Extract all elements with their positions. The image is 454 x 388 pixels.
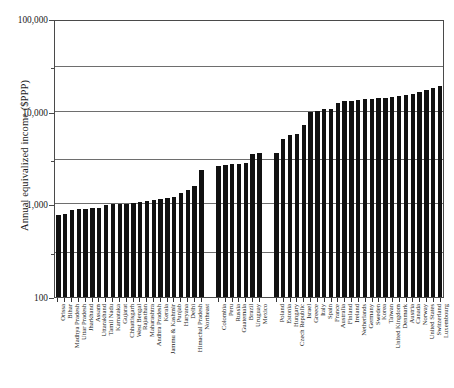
x-label-cell: Luxembourg [436, 303, 443, 388]
bar [152, 200, 156, 297]
bar [322, 109, 326, 297]
x-label-cell: Sweden [368, 303, 375, 388]
bar [179, 193, 183, 297]
bar [295, 134, 299, 297]
x-label-cell: Greece [307, 303, 314, 388]
x-label-cell: Ireland [348, 303, 355, 388]
x-label-cell: West Bengal [129, 303, 136, 388]
x-tick-label: Luxembourg [443, 304, 450, 338]
x-label-cell: Israel [300, 303, 307, 388]
y-tick-label: 1,000 [27, 200, 48, 210]
bar [356, 100, 360, 297]
bar [216, 166, 220, 297]
x-label-cell: Jammu & Kashmir [163, 303, 170, 388]
bar [397, 96, 401, 297]
x-label-cell: United States [423, 303, 430, 388]
bar [186, 190, 190, 297]
bar [342, 101, 346, 297]
x-label-cell: Orissa [54, 303, 61, 388]
bar [308, 112, 312, 297]
x-label-cell: Hungary [286, 303, 293, 388]
x-label-cell: United Kingdom [389, 303, 396, 388]
bar [145, 201, 149, 297]
bar [63, 214, 67, 297]
bar [250, 154, 254, 297]
bar [192, 186, 196, 297]
x-tick-label: Mexico [262, 304, 269, 324]
y-tick-minor [51, 254, 55, 255]
x-label-cell: Italy [313, 303, 320, 388]
x-label-cell: Karnataka [109, 303, 116, 388]
x-label-cell: Germany [361, 303, 368, 388]
bar [56, 215, 60, 297]
x-label-cell: France [327, 303, 334, 388]
x-label-cell: Canada [409, 303, 416, 388]
x-label-cell: Switzerland [430, 303, 437, 388]
plot-area [54, 20, 444, 298]
y-tick-major [49, 20, 54, 21]
bar [111, 204, 115, 297]
bar [376, 98, 380, 297]
bar [363, 99, 367, 297]
x-label-cell: Russia [228, 303, 235, 388]
bar [124, 204, 128, 297]
x-label-cell: Czech Republic [293, 303, 300, 388]
x-label-cell: Uruguay [249, 303, 256, 388]
x-label-cell: Jharkhand [81, 303, 88, 388]
x-axis-labels: OrissaBiharMadhya PradeshUttar PradeshJh… [54, 303, 444, 388]
bar [438, 86, 442, 297]
x-label-cell: Denmark [395, 303, 402, 388]
x-label-cell: Finland [341, 303, 348, 388]
x-label-cell: Punjab [170, 303, 177, 388]
bar-series [55, 21, 443, 297]
bar [237, 164, 241, 297]
y-axis-title: Annual equivalized income ($PPP) [19, 46, 30, 266]
x-label-cell: Andhra Pradesh [150, 303, 157, 388]
bar [77, 209, 81, 297]
bar [131, 203, 135, 297]
chart-figure: Annual equivalized income ($PPP) 100,000… [0, 0, 454, 388]
y-tick-major [49, 205, 54, 206]
x-label-cell: Assam [88, 303, 95, 388]
bar [349, 101, 353, 298]
x-label-cell: Brazil [242, 303, 249, 388]
bar [302, 125, 306, 297]
bar [336, 103, 340, 297]
bar [118, 204, 122, 297]
bar [230, 164, 234, 297]
x-label-cell: Kerala [156, 303, 163, 388]
bar [83, 209, 87, 297]
x-label-cell: Rajasthan [136, 303, 143, 388]
bar [315, 111, 319, 297]
x-label-cell: Maharashtra [143, 303, 150, 388]
x-label-cell: Bihar [61, 303, 68, 388]
bar [281, 139, 285, 297]
bar [431, 88, 435, 297]
x-label-cell: Australia [334, 303, 341, 388]
bar [370, 99, 374, 297]
x-label-cell: Spain [320, 303, 327, 388]
x-label-cell: Austria [402, 303, 409, 388]
x-label-cell: Gujarat [115, 303, 122, 388]
bar [223, 165, 227, 297]
x-label-cell: Poland [273, 303, 280, 388]
y-tick-minor [51, 68, 55, 69]
bar [172, 197, 176, 297]
x-label-cell: Madhya Pradesh [68, 303, 75, 388]
bar [138, 202, 142, 297]
x-label-cell: Mexico [255, 303, 262, 388]
x-label-cell: Delhi [184, 303, 191, 388]
bar [70, 210, 74, 297]
y-tick-label: 10,000 [22, 108, 48, 118]
x-label-cell: Taiwan [382, 303, 389, 388]
bar [97, 208, 101, 297]
x-label-cell: Haryana [177, 303, 184, 388]
x-label-cell: Guatemala [235, 303, 242, 388]
bar [90, 208, 94, 297]
bar [244, 163, 248, 297]
bar [424, 90, 428, 297]
bar [390, 97, 394, 297]
y-tick-label: 100 [34, 293, 48, 303]
bar [257, 153, 261, 297]
bar [383, 98, 387, 297]
